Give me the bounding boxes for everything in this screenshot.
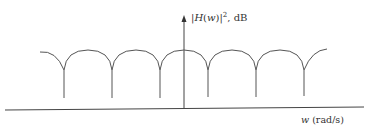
x-axis-label: w (rad/s) <box>301 114 344 125</box>
y-label-units: , dB <box>227 12 247 23</box>
y-axis-arrowhead-icon <box>182 15 187 22</box>
y-label-func: H <box>194 12 203 23</box>
x-label-var: w <box>301 114 309 125</box>
x-label-units: (rad/s) <box>309 114 344 125</box>
y-axis-label: |H(w)|2, dB <box>191 11 247 23</box>
y-label-paren-close: )| <box>216 12 223 23</box>
y-label-var: w <box>207 12 216 23</box>
diagram-canvas <box>0 0 372 131</box>
